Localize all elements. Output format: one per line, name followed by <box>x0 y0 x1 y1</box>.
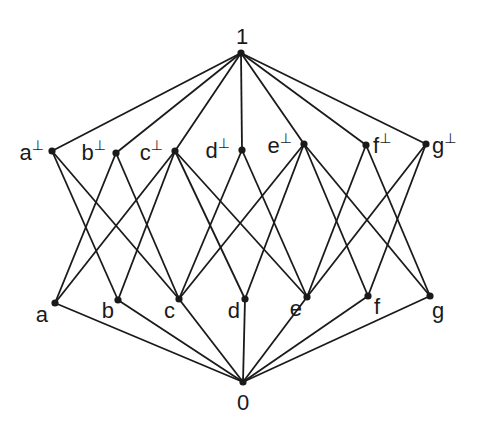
node-label-g: g <box>432 298 444 323</box>
node-label-b: b <box>102 298 114 323</box>
perp-superscript: ⊥ <box>444 130 456 146</box>
perp-superscript: ⊥ <box>32 137 44 153</box>
node-b_perp <box>112 149 119 156</box>
edge-1-e_perp <box>241 53 304 144</box>
node-label-d_perp: d⊥ <box>206 135 230 163</box>
edge-f_perp-g <box>366 145 430 296</box>
node-f_perp <box>362 141 369 148</box>
node-a_perp <box>48 147 55 154</box>
edge-1-c_perp <box>175 53 241 151</box>
node-label-f: f <box>374 294 381 319</box>
edge-1-d_perp <box>241 53 242 150</box>
edge-g_perp-f <box>368 144 426 296</box>
node-0 <box>239 378 246 385</box>
node-label-g_perp: g⊥ <box>432 130 456 158</box>
node-label-f_perp: f⊥ <box>373 130 391 158</box>
node-f <box>364 292 371 299</box>
perp-superscript: ⊥ <box>151 137 163 153</box>
node-label-1: 1 <box>236 24 248 49</box>
node-label-c: c <box>164 298 175 323</box>
node-c <box>175 295 182 302</box>
edge-1-g_perp <box>241 53 426 144</box>
edge-c_perp-a <box>55 151 175 303</box>
node-g_perp <box>422 140 429 147</box>
perp-superscript: ⊥ <box>218 135 230 151</box>
edge-e_perp-c <box>179 144 304 299</box>
node-label-a: a <box>36 302 49 327</box>
edge-d_perp-c <box>179 150 242 299</box>
edge-1-f_perp <box>241 53 366 145</box>
node-label-d: d <box>228 298 240 323</box>
node-label-0: 0 <box>237 390 249 415</box>
edge-g-0 <box>243 296 430 382</box>
edge-d-0 <box>243 299 245 382</box>
edge-e_perp-d <box>245 144 304 299</box>
node-1 <box>237 49 244 56</box>
hasse-diagram: 1a⊥b⊥c⊥d⊥e⊥f⊥g⊥abcdefg0 <box>0 0 485 432</box>
node-d_perp <box>238 146 245 153</box>
edge-g_perp-e <box>307 144 426 297</box>
edges-layer <box>52 53 430 382</box>
edge-c_perp-b <box>118 151 175 300</box>
edge-b-0 <box>118 300 243 382</box>
node-a <box>51 299 58 306</box>
node-label-e: e <box>290 296 302 321</box>
node-label-e_perp: e⊥ <box>268 130 292 158</box>
perp-superscript: ⊥ <box>379 130 391 146</box>
node-label-b_perp: b⊥ <box>82 137 106 165</box>
edge-f_perp-e <box>307 145 366 297</box>
edge-b_perp-a <box>55 153 116 303</box>
node-e_perp <box>300 140 307 147</box>
edge-1-a_perp <box>52 53 241 151</box>
perp-superscript: ⊥ <box>94 137 106 153</box>
node-c_perp <box>171 147 178 154</box>
node-b <box>114 296 121 303</box>
node-e <box>303 293 310 300</box>
node-label-c_perp: c⊥ <box>140 137 163 165</box>
edge-a-0 <box>55 303 243 382</box>
perp-superscript: ⊥ <box>280 130 292 146</box>
edge-b_perp-c <box>116 153 179 299</box>
node-d <box>241 295 248 302</box>
node-label-a_perp: a⊥ <box>20 137 44 165</box>
edge-f-0 <box>243 296 368 382</box>
edge-c_perp-e <box>175 151 307 297</box>
